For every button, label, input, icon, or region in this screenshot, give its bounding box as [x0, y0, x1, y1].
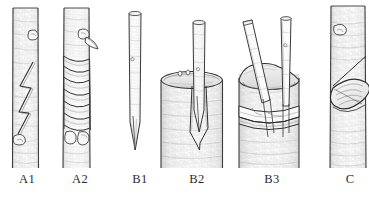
c-bud-upper	[334, 24, 347, 35]
figure-label-b2: B2	[189, 172, 204, 187]
figure-a1	[10, 6, 42, 170]
a2-bud-lower-right	[78, 132, 89, 145]
b2-scion-top-cut	[193, 20, 205, 24]
b3-scion-right-top-cut	[281, 17, 291, 21]
figure-plate: A1 A2 B1 B2 B3 C	[0, 0, 369, 199]
figure-label-a1: A1	[19, 172, 35, 187]
a1-bud-lower	[13, 134, 25, 145]
figure-label-b3: B3	[264, 172, 279, 187]
b1-lenticel	[131, 57, 135, 60]
figure-label-b1: B1	[132, 172, 147, 187]
b1-top-cut	[129, 11, 141, 15]
a2-bud-lower-left	[65, 131, 76, 144]
b3-scion-right	[281, 17, 291, 106]
figure-label-a2: A2	[72, 172, 88, 187]
b2-stock-cut-top	[161, 72, 223, 89]
figure-label-c: C	[346, 172, 355, 187]
figure-c	[328, 4, 369, 170]
a1-bud-upper	[28, 30, 38, 40]
illustration-canvas	[0, 0, 369, 199]
figure-caption-row: A1 A2 B1 B2 B3 C	[0, 172, 369, 194]
